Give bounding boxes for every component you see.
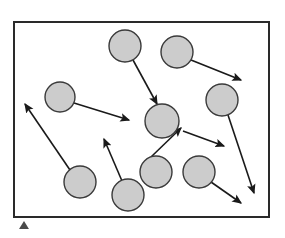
particle-6-circle <box>140 156 172 188</box>
particle-5-circle <box>145 104 179 138</box>
figure-root <box>0 0 285 238</box>
corner-marker-triangle-icon <box>19 221 29 229</box>
particle-2-circle <box>161 36 193 68</box>
particle-diagram-canvas <box>0 0 285 238</box>
particle-1-circle <box>109 30 141 62</box>
particle-8-circle <box>64 166 96 198</box>
particle-4-circle <box>206 84 238 116</box>
particle-9-circle <box>112 179 144 211</box>
particle-7-circle <box>183 156 215 188</box>
particle-3-circle <box>45 82 75 112</box>
